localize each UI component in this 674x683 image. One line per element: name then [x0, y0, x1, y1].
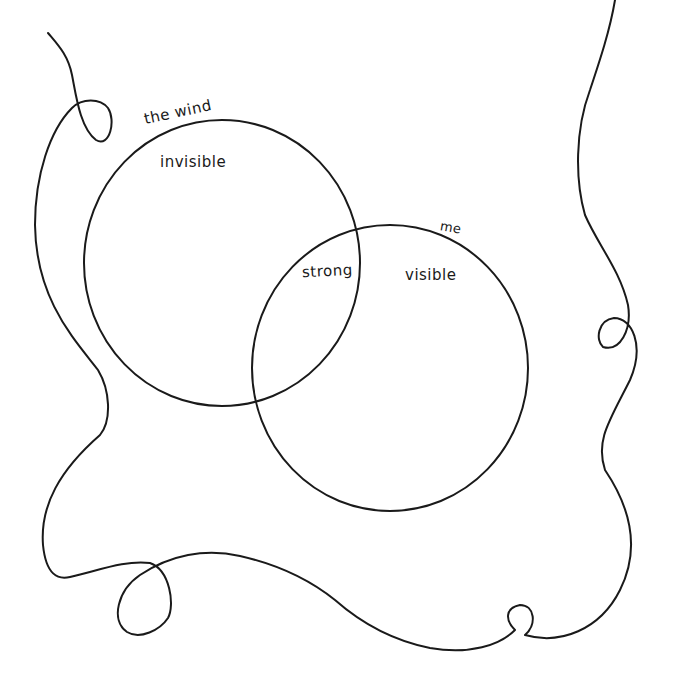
set-label-visible: visible — [405, 266, 456, 284]
circle-me — [252, 225, 528, 511]
set-label-invisible: invisible — [160, 153, 226, 171]
diagram-drawing — [0, 0, 674, 683]
intersection-label-strong: strong — [302, 261, 354, 282]
string-border — [35, 0, 637, 650]
venn-diagram: the wind invisible strong me visible — [0, 0, 674, 683]
